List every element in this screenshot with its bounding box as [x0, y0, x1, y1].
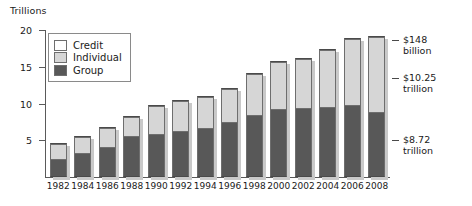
bar-2000 [270, 61, 287, 177]
annotation-individual: $10.25 trillion [403, 72, 436, 94]
bar-segment-individual [344, 40, 361, 106]
y-tick-10 [39, 104, 46, 105]
y-tick-20 [39, 30, 46, 31]
bar-segment-group [270, 110, 287, 177]
y-tick-label-5: 5 [2, 135, 32, 146]
bar-1994 [197, 96, 214, 177]
chart-legend: Credit Individual Group [48, 33, 131, 82]
bar-2006 [344, 38, 361, 177]
annotation-credit-value: $148 [403, 34, 431, 45]
y-tick-5 [39, 140, 46, 141]
bar-segment-group [319, 108, 336, 177]
annotation-credit: $148 billion [403, 34, 431, 56]
bar-segment-individual [74, 138, 91, 154]
bar-segment-group [123, 137, 140, 177]
bar-segment-individual [172, 102, 189, 132]
bar-segment-group [99, 148, 116, 177]
bar-1988 [123, 116, 140, 177]
legend-swatch-individual [54, 52, 67, 63]
annotation-individual-value: $10.25 [403, 72, 436, 83]
bar-segment-individual [148, 107, 165, 135]
bar-segment-group [344, 106, 361, 177]
legend-item-credit: Credit [54, 40, 122, 51]
bar-1990 [148, 105, 165, 177]
bar-segment-individual [221, 90, 238, 123]
y-tick-label-15: 15 [2, 61, 32, 72]
annotation-credit-unit: billion [403, 45, 431, 56]
bar-segment-individual [50, 145, 67, 160]
legend-item-individual: Individual [54, 52, 122, 63]
legend-label-credit: Credit [73, 40, 103, 51]
legend-item-group: Group [54, 65, 122, 76]
bar-segment-individual [246, 75, 263, 116]
bar-1998 [246, 73, 263, 177]
bar-segment-individual [99, 129, 116, 147]
y-tick-label-20: 20 [2, 25, 32, 36]
legend-swatch-group [54, 65, 67, 76]
bar-segment-group [197, 129, 214, 178]
annotation-tick-individual [392, 78, 399, 79]
bar-segment-group [74, 154, 91, 177]
bar-1986 [99, 127, 116, 177]
stacked-bar-chart: Trillions 5101520 1982198419861988199019… [0, 0, 472, 206]
legend-label-individual: Individual [73, 52, 122, 63]
annotation-tick-credit [392, 40, 399, 41]
bar-segment-group [148, 135, 165, 177]
bar-2002 [295, 58, 312, 177]
bar-2004 [319, 49, 336, 177]
annotation-group-unit: trillion [403, 145, 433, 156]
bar-1982 [50, 143, 67, 177]
annotation-group-value: $8.72 [403, 134, 433, 145]
bar-segment-individual [123, 118, 140, 137]
bar-segment-individual [319, 51, 336, 108]
x-tick-label-2008: 2008 [360, 181, 394, 191]
bar-segment-group [246, 116, 263, 177]
bar-1984 [74, 136, 91, 177]
annotation-group: $8.72 trillion [403, 134, 433, 156]
legend-swatch-credit [54, 40, 67, 51]
y-tick-label-10: 10 [2, 98, 32, 109]
bar-segment-individual [197, 98, 214, 129]
bar-1996 [221, 88, 238, 177]
legend-label-group: Group [73, 65, 103, 76]
bar-segment-individual [368, 38, 385, 113]
bar-segment-group [172, 132, 189, 177]
annotation-individual-unit: trillion [403, 83, 436, 94]
annotation-tick-group [392, 140, 399, 141]
bar-2008 [368, 36, 385, 177]
y-tick-15 [39, 67, 46, 68]
bar-segment-individual [270, 63, 287, 110]
bar-segment-group [368, 113, 385, 177]
bar-1992 [172, 100, 189, 177]
bar-segment-group [221, 123, 238, 177]
y-axis-unit-label: Trillions [10, 5, 47, 16]
bar-segment-individual [295, 60, 312, 109]
bar-segment-group [295, 109, 312, 177]
bar-segment-group [50, 160, 67, 177]
